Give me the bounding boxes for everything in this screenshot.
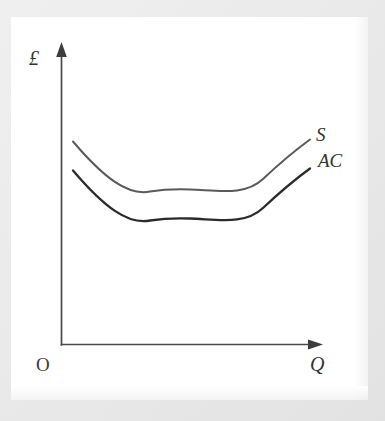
y-axis-label: £ — [29, 47, 40, 69]
average-cost-curve-label: AC — [316, 150, 343, 171]
supply-curve-label: S — [316, 124, 326, 145]
figure-root: £ Q O S AC — [0, 0, 385, 421]
y-axis-arrow-icon — [56, 42, 67, 57]
origin-label: O — [36, 354, 50, 375]
supply-curve — [73, 140, 310, 193]
cost-curve-chart: £ Q O S AC — [0, 0, 385, 421]
x-axis-label: Q — [310, 353, 325, 375]
x-axis-arrow-icon — [308, 339, 323, 349]
